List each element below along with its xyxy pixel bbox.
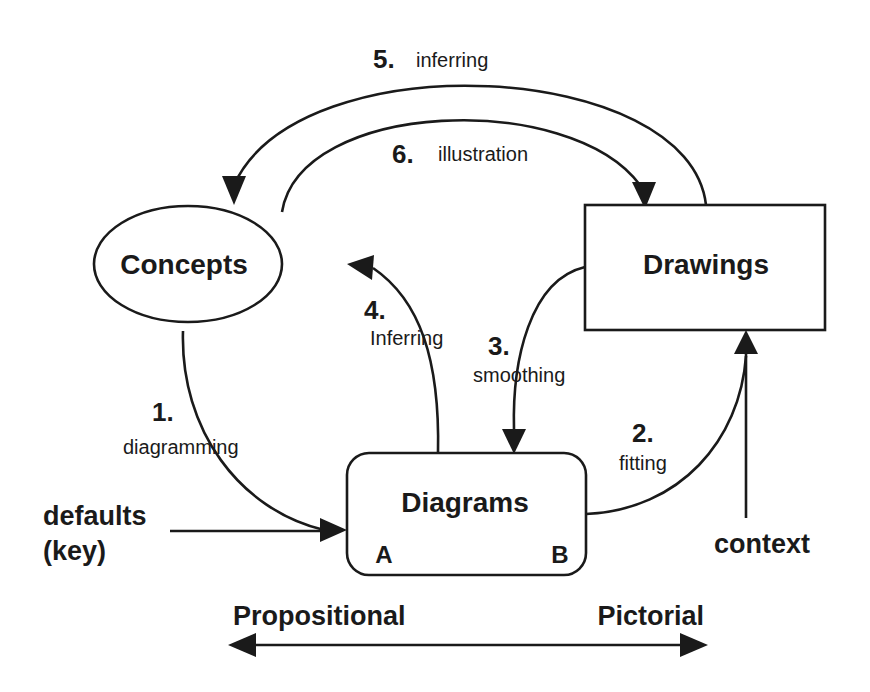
axis-right-arrowhead-icon bbox=[680, 633, 708, 657]
context-label: context bbox=[714, 529, 810, 559]
edge-1-label: diagramming bbox=[123, 436, 239, 458]
axis-right-label: Pictorial bbox=[597, 601, 704, 631]
axis-left-label: Propositional bbox=[233, 601, 406, 631]
diagrams-corner-b: B bbox=[551, 541, 568, 568]
edge-2-number: 2. bbox=[632, 418, 654, 448]
diagrams-label: Diagrams bbox=[401, 487, 529, 518]
edge-6-label: illustration bbox=[438, 143, 528, 165]
edge-1-number: 1. bbox=[152, 397, 174, 427]
edge-3-number: 3. bbox=[488, 331, 510, 361]
edge-5-label: inferring bbox=[416, 49, 488, 71]
edge-2-fitting-line bbox=[586, 356, 746, 514]
diagrams-corner-a: A bbox=[375, 541, 392, 568]
edge-5-arrowhead-icon bbox=[222, 176, 246, 205]
edge-3-label: smoothing bbox=[473, 364, 565, 386]
edge-5-number: 5. bbox=[373, 44, 395, 74]
edge-4-label: Inferring bbox=[370, 327, 443, 349]
edge-3-smoothing-line bbox=[514, 267, 585, 430]
defaults-key-label: (key) bbox=[43, 536, 106, 566]
edge-6-illustration-line bbox=[282, 120, 640, 212]
edge-4-number: 4. bbox=[364, 295, 386, 325]
edge-6-number: 6. bbox=[392, 139, 414, 169]
diagram-canvas: Concepts Drawings Diagrams A B 5. inferr… bbox=[0, 0, 870, 692]
drawings-label: Drawings bbox=[643, 249, 769, 280]
defaults-label: defaults bbox=[43, 501, 147, 531]
edge-4-arrowhead-icon bbox=[347, 255, 374, 280]
edge-1-arrowhead-icon bbox=[320, 518, 347, 542]
edge-1-diagramming-line bbox=[183, 331, 324, 530]
concepts-label: Concepts bbox=[120, 249, 248, 280]
edge-3-arrowhead-icon bbox=[502, 429, 526, 454]
context-arrowhead-icon bbox=[734, 330, 758, 354]
axis-left-arrowhead-icon bbox=[228, 633, 256, 657]
edge-2-label: fitting bbox=[619, 452, 667, 474]
